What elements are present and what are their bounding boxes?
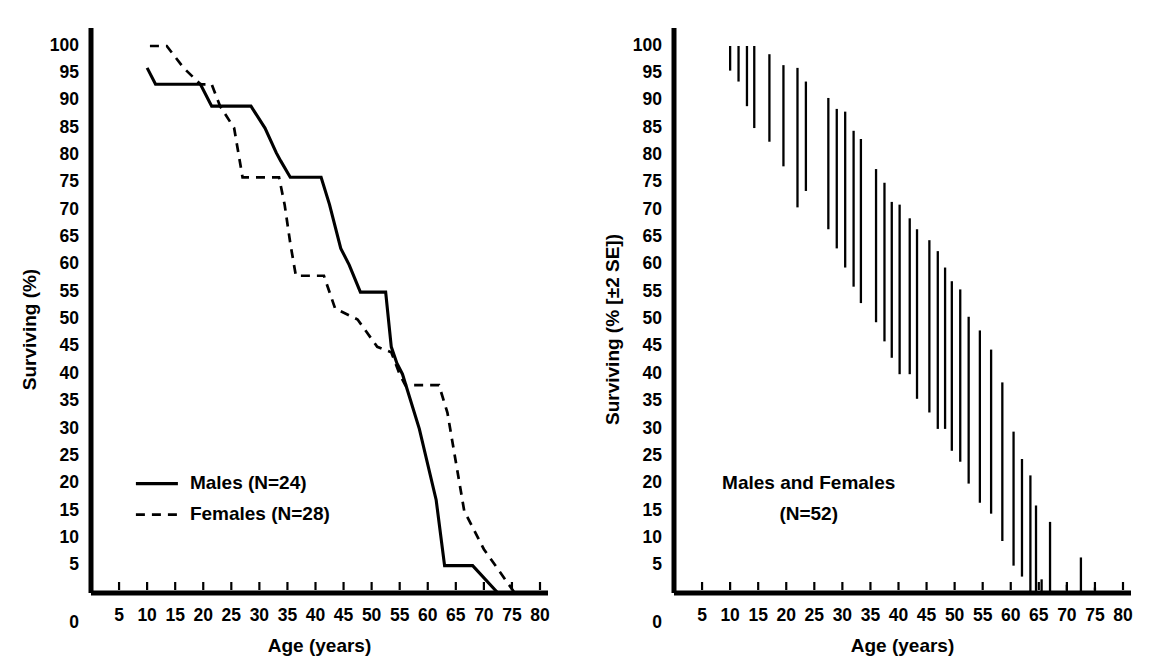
y-tick-label: 25 [643, 445, 663, 465]
y-tick-label: 15 [643, 500, 663, 520]
y-origin-label: 0 [69, 612, 79, 632]
y-tick-label: 70 [643, 199, 663, 219]
x-tick-label: 10 [720, 605, 740, 625]
x-tick-label: 5 [697, 605, 707, 625]
x-axis-title: Age (years) [268, 635, 372, 656]
y-origin-label: 0 [652, 612, 662, 632]
x-tick-label: 35 [278, 605, 298, 625]
x-tick-label: 20 [777, 605, 797, 625]
y-tick-label: 45 [643, 335, 663, 355]
y-tick-label: 90 [60, 89, 80, 109]
x-tick-label: 50 [945, 605, 965, 625]
x-tick-label: 70 [474, 605, 494, 625]
y-tick-label: 55 [643, 281, 663, 301]
y-axis-title: Surviving (%) [19, 269, 40, 390]
x-tick-label: 5 [114, 605, 124, 625]
x-tick-label: 40 [889, 605, 909, 625]
x-tick-label: 25 [222, 605, 242, 625]
y-tick-label: 100 [633, 35, 662, 55]
y-tick-label: 80 [643, 144, 663, 164]
x-tick-label: 55 [390, 605, 410, 625]
x-tick-label: 75 [502, 605, 522, 625]
survival-figure: 5101520253035404550556065707580859095100… [0, 0, 1165, 667]
y-tick-label: 65 [60, 226, 80, 246]
y-axis-ticks: 5101520253035404550556065707580859095100… [633, 35, 662, 632]
y-tick-label: 45 [60, 335, 80, 355]
legend: Males (N=24)Females (N=28) [136, 472, 330, 524]
x-tick-label: 60 [418, 605, 438, 625]
y-tick-label: 35 [643, 390, 663, 410]
x-tick-label: 25 [805, 605, 825, 625]
annotation-line: Males and Females [722, 472, 895, 493]
y-tick-label: 60 [60, 253, 80, 273]
y-tick-label: 95 [60, 62, 80, 82]
x-tick-label: 35 [861, 605, 881, 625]
y-tick-label: 10 [643, 527, 663, 547]
x-tick-label: 75 [1085, 605, 1105, 625]
y-tick-label: 40 [643, 363, 663, 383]
legend-label: Males (N=24) [190, 472, 307, 493]
y-tick-label: 20 [643, 472, 663, 492]
x-tick-label: 80 [530, 605, 550, 625]
y-tick-label: 65 [643, 226, 663, 246]
annotation-line: (N=52) [779, 503, 838, 524]
y-axis-title: Surviving (% [±2 SE]) [602, 234, 623, 425]
left-survival-chart: 5101520253035404550556065707580859095100… [0, 0, 582, 667]
y-tick-label: 95 [643, 62, 663, 82]
y-tick-label: 20 [60, 472, 80, 492]
y-tick-label: 80 [60, 144, 80, 164]
x-tick-label: 70 [1057, 605, 1077, 625]
x-tick-label: 65 [446, 605, 466, 625]
x-tick-label: 10 [137, 605, 157, 625]
x-tick-label: 30 [833, 605, 853, 625]
y-tick-label: 30 [643, 418, 663, 438]
panel-annotation: Males and Females(N=52) [722, 472, 895, 524]
y-tick-label: 50 [60, 308, 80, 328]
y-tick-label: 30 [60, 418, 80, 438]
x-axis-title: Age (years) [851, 635, 955, 656]
right-chart-panel: 5101520253035404550556065707580859095100… [583, 0, 1165, 667]
x-tick-label: 15 [748, 605, 768, 625]
y-tick-label: 75 [643, 171, 663, 191]
right-survival-errorbar-chart: 5101520253035404550556065707580859095100… [583, 0, 1165, 667]
y-tick-label: 90 [643, 89, 663, 109]
x-tick-label: 55 [973, 605, 993, 625]
x-tick-label: 30 [250, 605, 270, 625]
axes-group [674, 28, 1131, 593]
y-tick-label: 55 [60, 281, 80, 301]
y-tick-label: 100 [50, 35, 79, 55]
y-tick-label: 75 [60, 171, 80, 191]
x-axis-ticks: 5101520253035404550556065707580 [114, 582, 550, 625]
left-chart-panel: 5101520253035404550556065707580859095100… [0, 0, 582, 667]
y-tick-label: 40 [60, 363, 80, 383]
y-tick-label: 50 [643, 308, 663, 328]
y-tick-label: 85 [643, 117, 663, 137]
x-tick-label: 40 [306, 605, 326, 625]
x-tick-label: 45 [334, 605, 354, 625]
x-tick-label: 80 [1113, 605, 1133, 625]
y-tick-label: 15 [60, 500, 80, 520]
y-axis-ticks: 5101520253035404550556065707580859095100… [50, 35, 79, 632]
y-tick-label: 35 [60, 390, 80, 410]
y-tick-label: 60 [643, 253, 663, 273]
x-tick-label: 45 [917, 605, 937, 625]
y-tick-label: 70 [60, 199, 80, 219]
y-tick-label: 5 [69, 554, 79, 574]
x-tick-label: 20 [194, 605, 214, 625]
x-tick-label: 50 [362, 605, 382, 625]
legend-label: Females (N=28) [190, 503, 330, 524]
y-tick-label: 5 [652, 554, 662, 574]
x-tick-label: 60 [1001, 605, 1021, 625]
x-tick-label: 15 [165, 605, 185, 625]
y-tick-label: 25 [60, 445, 80, 465]
y-tick-label: 85 [60, 117, 80, 137]
y-tick-label: 10 [60, 527, 80, 547]
x-tick-label: 65 [1029, 605, 1049, 625]
